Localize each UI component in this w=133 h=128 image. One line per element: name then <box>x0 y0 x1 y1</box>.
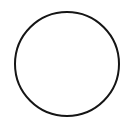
background-rect <box>0 0 133 128</box>
image-canvas: circle <box>0 0 133 128</box>
figure-canvas <box>0 0 133 128</box>
